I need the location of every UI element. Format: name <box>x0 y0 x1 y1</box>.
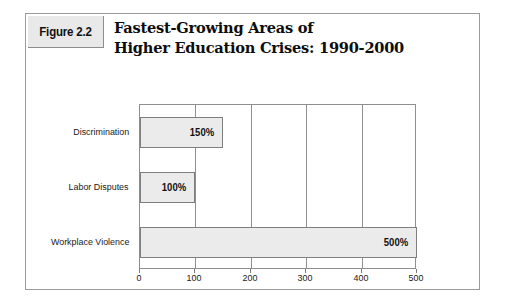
bar: 150% <box>140 117 223 148</box>
tick-label: 200 <box>243 272 258 283</box>
tick-label: 400 <box>354 272 369 283</box>
category-label: Workplace Violence <box>50 236 129 247</box>
tick-label: 500 <box>409 272 424 283</box>
x-axis-tick-labels: 0100200300400500 <box>139 272 416 286</box>
figure-frame: Figure 2.2 Fastest-Growing Areas of High… <box>25 13 480 290</box>
bars-layer: 150%100%500% <box>140 105 415 268</box>
figure-title-line-2: Higher Education Crises: 1990-2000 <box>114 38 469 58</box>
figure-number-box: Figure 2.2 <box>28 16 104 48</box>
figure-header: Figure 2.2 Fastest-Growing Areas of High… <box>26 14 481 90</box>
tick-label: 300 <box>298 272 313 283</box>
category-label: Labor Disputes <box>69 181 129 192</box>
plot-area: 150%100%500% <box>139 104 416 269</box>
category-axis-labels: DiscriminationLabor DisputesWorkplace Vi… <box>26 104 134 269</box>
figure-number-label: Figure 2.2 <box>39 25 91 39</box>
bar: 100% <box>140 172 195 203</box>
tick-label: 0 <box>137 272 142 283</box>
figure-title: Fastest-Growing Areas of Higher Educatio… <box>114 18 469 58</box>
bar-value-label: 500% <box>384 237 415 248</box>
figure-title-line-1: Fastest-Growing Areas of <box>114 18 469 38</box>
bar: 500% <box>140 227 417 258</box>
bar-value-label: 150% <box>190 127 221 138</box>
bar-value-label: 100% <box>162 182 193 193</box>
bar-chart: DiscriminationLabor DisputesWorkplace Vi… <box>26 84 481 284</box>
category-label: Discrimination <box>73 126 129 137</box>
tick-label: 100 <box>187 272 202 283</box>
